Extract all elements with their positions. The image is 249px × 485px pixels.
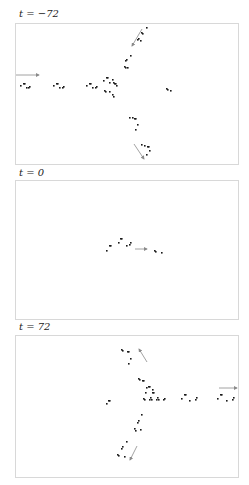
glider-canvas — [16, 181, 238, 319]
live-cell — [20, 85, 22, 87]
live-cell — [113, 96, 115, 98]
live-cell — [138, 420, 140, 422]
glider-canvas — [16, 336, 238, 477]
direction-arrow-icon — [134, 144, 144, 159]
live-cell — [150, 397, 152, 399]
live-cell — [128, 351, 130, 353]
live-cell — [118, 455, 120, 457]
live-cell — [130, 242, 132, 244]
live-cell — [226, 400, 228, 402]
live-cell — [152, 389, 154, 391]
live-cell — [146, 154, 148, 156]
live-cell — [155, 251, 157, 253]
direction-arrow-icon — [130, 446, 137, 460]
live-cell — [149, 399, 151, 401]
live-cell — [128, 363, 130, 365]
live-cell — [144, 399, 146, 401]
live-cell — [135, 129, 137, 131]
live-cell — [112, 94, 114, 96]
panel-label-t-72: t = 72 — [19, 321, 50, 333]
live-cell — [24, 83, 26, 85]
live-cell — [106, 250, 108, 252]
live-cell — [149, 150, 151, 152]
live-cell — [126, 59, 128, 61]
panel-label-t-minus-72: t = −72 — [19, 8, 59, 20]
live-cell — [221, 394, 223, 396]
live-cell — [129, 244, 131, 246]
live-cell — [92, 87, 94, 89]
live-cell — [116, 85, 118, 87]
live-cell — [146, 27, 148, 29]
live-cell — [122, 446, 124, 448]
live-cell — [145, 392, 147, 394]
glider-canvas — [16, 24, 238, 164]
live-cell — [134, 428, 136, 430]
live-cell — [195, 399, 197, 401]
live-cell — [138, 38, 140, 40]
live-cell — [63, 86, 65, 88]
live-cell — [167, 89, 169, 91]
live-cell — [86, 85, 88, 87]
live-cell — [124, 456, 126, 458]
live-cell — [163, 399, 165, 401]
live-cell — [156, 399, 158, 401]
live-cell — [196, 397, 198, 399]
live-cell — [96, 86, 98, 88]
live-cell — [148, 146, 150, 148]
live-cell — [139, 379, 141, 381]
live-cell — [110, 245, 112, 247]
panel-t-72 — [15, 335, 239, 478]
live-cell — [158, 399, 160, 401]
live-cell — [126, 441, 128, 443]
live-cell — [121, 238, 123, 240]
live-cell — [109, 91, 111, 93]
live-cell — [161, 252, 163, 254]
live-cell — [53, 85, 55, 87]
live-cell — [130, 55, 132, 57]
live-cell — [140, 429, 142, 431]
live-cell — [153, 392, 155, 394]
live-cell — [141, 32, 143, 34]
live-cell — [141, 414, 143, 416]
live-cell — [181, 398, 183, 400]
live-cell — [140, 40, 142, 42]
panel-label-t-0: t = 0 — [19, 167, 44, 179]
live-cell — [151, 399, 153, 401]
live-cell — [112, 79, 114, 81]
live-cell — [135, 118, 137, 120]
live-cell — [122, 350, 124, 352]
live-cell — [129, 117, 131, 119]
live-cell — [59, 87, 61, 89]
live-cell — [57, 83, 59, 85]
live-cell — [109, 82, 111, 84]
live-cell — [90, 83, 92, 85]
live-cell — [125, 67, 127, 69]
live-cell — [26, 87, 28, 89]
live-cell — [170, 90, 172, 92]
live-cell — [143, 380, 145, 382]
live-cell — [29, 86, 31, 88]
live-cell — [130, 358, 132, 360]
live-cell — [126, 245, 128, 247]
live-cell — [106, 403, 108, 405]
live-cell — [135, 430, 137, 432]
live-cell — [189, 400, 191, 402]
panel-t-0 — [15, 180, 239, 320]
live-cell — [144, 145, 146, 147]
live-cell — [127, 67, 129, 69]
live-cell — [132, 117, 134, 119]
live-cell — [137, 422, 139, 424]
live-cell — [232, 399, 234, 401]
live-cell — [157, 397, 159, 399]
live-cell — [217, 398, 219, 400]
direction-arrow-icon — [139, 349, 147, 362]
live-cell — [149, 386, 151, 388]
live-cell — [103, 80, 105, 82]
live-cell — [146, 387, 148, 389]
live-cell — [141, 144, 143, 146]
live-cell — [137, 124, 139, 126]
live-cell — [118, 242, 120, 244]
direction-arrow-icon — [132, 29, 142, 46]
live-cell — [109, 400, 111, 402]
live-cell — [115, 83, 117, 85]
